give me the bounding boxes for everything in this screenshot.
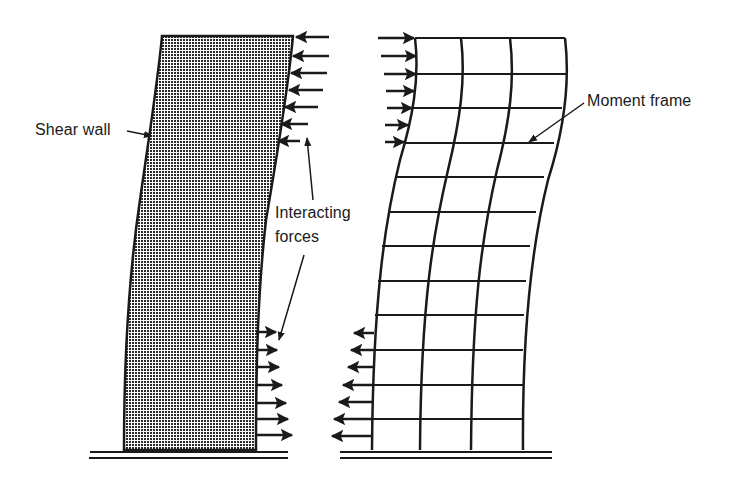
moment-frame-top-force-arrows [378, 38, 416, 142]
frame-column [471, 38, 512, 450]
shear-wall [124, 36, 293, 450]
shear-wall-body [124, 36, 293, 450]
frame-column [523, 38, 567, 450]
frame-column [372, 38, 417, 450]
moment-frame-bottom-force-arrows [332, 333, 374, 436]
shear-wall-moment-frame-diagram [0, 0, 746, 479]
moment-frame [372, 38, 567, 450]
shear-wall-bottom-force-arrows [256, 332, 292, 435]
frame-column [420, 38, 463, 450]
interacting-forces-label-line2: forces [275, 227, 319, 247]
shear-wall-label: Shear wall [35, 120, 111, 140]
shear-wall-leader [127, 131, 152, 136]
interacting-forces-leader-down [279, 255, 304, 340]
moment-frame-label: Moment frame [587, 91, 691, 111]
interacting-forces-leader-up [307, 138, 313, 200]
interacting-forces-label-line1: Interacting [275, 203, 351, 223]
moment-frame-ground [340, 452, 552, 458]
shear-wall-ground [89, 452, 288, 458]
